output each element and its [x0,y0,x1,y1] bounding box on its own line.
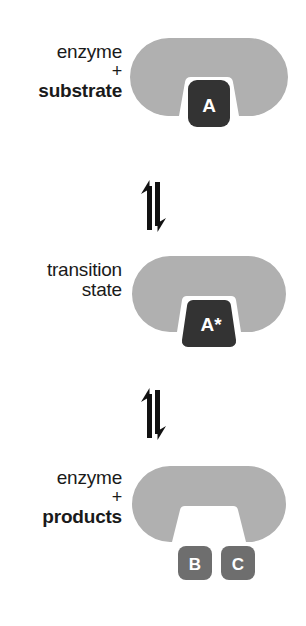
substrate-label-a: A [202,95,216,116]
label-line-substrate: substrate [0,81,122,101]
product-label-c: C [232,555,244,574]
arrow-down-glyph [155,182,166,232]
label-line-transition: transition [0,260,122,280]
label-line-state: state [0,280,122,300]
stage-art-transition-state: A* [128,252,306,387]
stage-label-transition-state: transition state [0,252,128,300]
label-line-enzyme: enzyme [0,42,122,62]
enzyme-products-graphic: B C [128,462,306,602]
label-line-enzyme: enzyme [0,468,122,488]
stage-enzyme-substrate: enzyme + substrate A [0,36,306,168]
equilibrium-arrow-2 [0,388,306,440]
transition-label-a-star: A* [200,314,222,335]
enzyme-substrate-graphic: A [128,36,306,168]
equilibrium-arrow-1 [0,180,306,232]
stage-art-enzyme-products: B C [128,462,306,602]
arrow-up-glyph [141,388,152,438]
arrow-up-glyph [141,180,152,230]
stage-label-enzyme-products: enzyme + products [0,462,128,527]
stage-art-enzyme-substrate: A [128,36,306,168]
label-line-plus: + [0,62,122,81]
label-line-plus: + [0,488,122,507]
stage-enzyme-products: enzyme + products B C [0,462,306,602]
stage-transition-state: transition state A* [0,252,306,387]
enzyme-catalysis-diagram: enzyme + substrate A [0,0,306,626]
transition-state-graphic: A* [128,252,306,387]
arrow-down-glyph [155,390,166,440]
label-line-products: products [0,507,122,527]
equilibrium-arrow-icon [130,180,176,232]
enzyme-body-products [132,466,286,542]
product-label-b: B [189,555,201,574]
equilibrium-arrow-icon [130,388,176,440]
stage-label-enzyme-substrate: enzyme + substrate [0,36,128,101]
